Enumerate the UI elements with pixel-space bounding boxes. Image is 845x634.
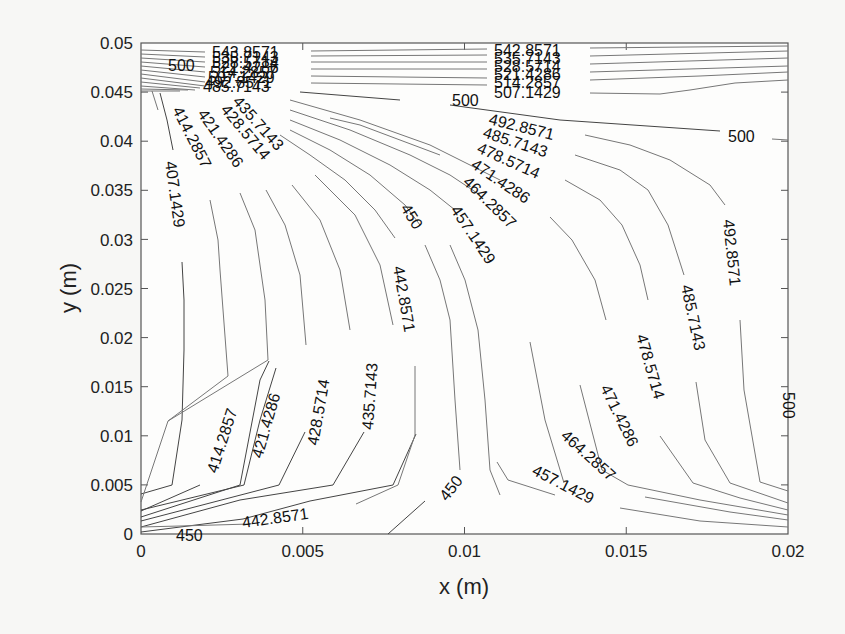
- y-axis-label: y (m): [56, 263, 81, 313]
- x-tick: 0.02: [771, 542, 804, 561]
- contour-label: 450: [176, 527, 203, 544]
- y-tick-labels: 0 0.005 0.01 0.015 0.02 0.025 0.03 0.035…: [90, 34, 133, 544]
- contour-label: 500: [452, 92, 479, 109]
- y-tick: 0.045: [90, 83, 133, 102]
- y-tick: 0.005: [90, 476, 133, 495]
- y-tick: 0: [124, 525, 133, 544]
- y-tick: 0.03: [100, 231, 133, 250]
- contour-label: 500: [780, 392, 797, 419]
- contour-label: 507.1429: [494, 84, 561, 101]
- x-axis-label: x (m): [439, 574, 489, 599]
- contour-chart: 0 0.005 0.01 0.015 0.02 0.025 0.03 0.035…: [0, 0, 845, 634]
- y-tick: 0.015: [90, 378, 133, 397]
- y-tick: 0.04: [100, 132, 133, 151]
- x-tick: 0.015: [605, 542, 648, 561]
- contour-label: 500: [728, 128, 755, 145]
- contour-label: 500: [168, 57, 195, 74]
- x-tick-labels: 0 0.005 0.01 0.015 0.02: [136, 542, 804, 561]
- x-tick: 0.005: [281, 542, 324, 561]
- y-tick: 0.01: [100, 427, 133, 446]
- svg-text:485.7143: 485.7143: [203, 78, 270, 95]
- y-tick: 0.035: [90, 181, 133, 200]
- x-tick: 0: [136, 542, 145, 561]
- y-tick: 0.025: [90, 280, 133, 299]
- overlap-label-cluster: 543.8571 535.7143 528.5714 521.4286 514.…: [203, 44, 279, 95]
- y-tick: 0.05: [100, 34, 133, 53]
- y-tick: 0.02: [100, 329, 133, 348]
- x-tick: 0.01: [448, 542, 481, 561]
